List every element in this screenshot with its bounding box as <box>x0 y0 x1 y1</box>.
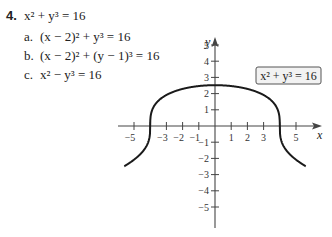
x-tick-label: −3 <box>157 132 168 143</box>
x-tick-label: 3 <box>261 132 266 143</box>
x-tick-label: 2 <box>245 132 250 143</box>
graph: xy−5−3−2−1123554321−1−2−3−4−5 x² + y³ = … <box>0 0 332 237</box>
x-tick-label: −2 <box>173 132 184 143</box>
y-tick-label: −3 <box>198 169 209 180</box>
y-tick-label: −5 <box>198 202 209 213</box>
y-tick-label: 5 <box>204 40 209 51</box>
legend-text: x² + y³ = 16 <box>260 69 317 83</box>
y-tick-label: 1 <box>204 104 209 115</box>
x-tick-label: −5 <box>125 132 136 143</box>
axes: xy−5−3−2−1123554321−1−2−3−4−5 <box>118 35 323 228</box>
x-tick-label: 1 <box>229 132 234 143</box>
y-tick-label: −4 <box>198 185 209 196</box>
y-tick-label: 2 <box>204 88 209 99</box>
y-tick-label: −2 <box>198 153 209 164</box>
y-tick-label: −1 <box>198 137 209 148</box>
y-tick-label: 4 <box>204 56 209 67</box>
equation-legend: x² + y³ = 16 <box>256 67 321 84</box>
x-axis-label: x <box>316 128 323 142</box>
y-tick-label: 3 <box>204 72 209 83</box>
x-tick-label: 5 <box>294 132 299 143</box>
